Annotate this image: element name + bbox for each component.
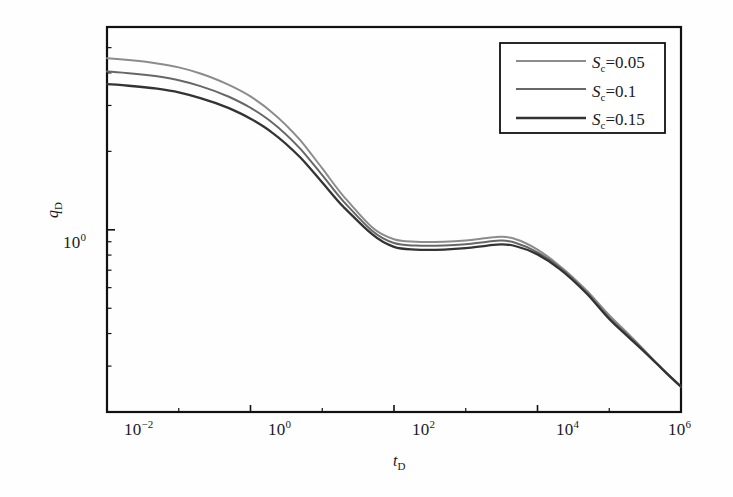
x-axis-title: tD (393, 452, 405, 470)
x-tick-label-3: 104 (556, 420, 579, 440)
y-tick-label-0: 100 (63, 233, 86, 253)
figure-canvas: 10−2 100 102 104 106 100 tD qD Sc=0.05 S… (0, 0, 733, 497)
x-tick-label-2: 102 (412, 420, 435, 440)
y-axis-title-wrapper: qD (44, 202, 62, 218)
chart-plot-area (0, 0, 733, 497)
x-tick-label-0: 10−2 (124, 420, 154, 440)
x-tick-label-1: 100 (268, 420, 291, 440)
legend-label-1: Sc=0.1 (592, 82, 636, 102)
x-tick-label-4: 106 (668, 420, 691, 440)
legend-label-2: Sc=0.15 (592, 110, 645, 130)
y-axis-title: qD (44, 202, 62, 218)
legend-label-0: Sc=0.05 (592, 53, 645, 73)
